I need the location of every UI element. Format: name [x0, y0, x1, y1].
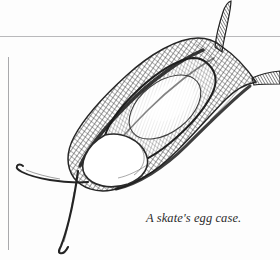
horn-upper-right — [215, 1, 231, 52]
illustration-plate: A skate's egg case. — [0, 0, 280, 260]
figure-caption: A skate's egg case. — [146, 210, 256, 226]
horn-right — [252, 71, 280, 85]
